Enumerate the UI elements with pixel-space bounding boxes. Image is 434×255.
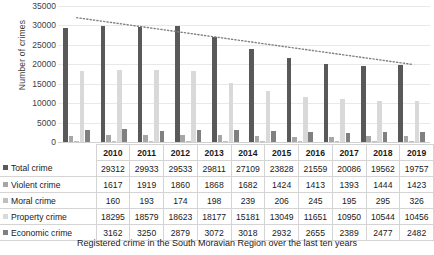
table-row: Moral crime16019317419823920624519529532… [0, 193, 434, 209]
table-row: Total crime29312299332953329811271092382… [0, 161, 434, 177]
y-axis-tick-5000: 5000 [22, 118, 56, 128]
bar-total-crime-2019 [398, 65, 403, 142]
bar-economic-crime-2018 [383, 132, 388, 142]
table-col-header-2011: 2011 [130, 145, 164, 161]
bar-violent-crime-2019 [404, 136, 409, 142]
table-cell-2015: 13049 [265, 209, 299, 225]
bar-moral-crime-2012 [149, 141, 154, 142]
table-cell-2018: 10544 [366, 209, 400, 225]
bar-violent-crime-2011 [106, 135, 111, 142]
table-cell-2019: 1423 [400, 177, 434, 193]
bar-property-crime-2019 [415, 101, 420, 142]
table-cell-2013: 29811 [197, 161, 231, 177]
table-cell-2014: 1682 [231, 177, 265, 193]
table-cell-2014: 15181 [231, 209, 265, 225]
bar-violent-crime-2016 [292, 137, 297, 142]
bar-economic-crime-2010 [85, 130, 90, 142]
bar-violent-crime-2017 [329, 137, 334, 142]
bar-property-crime-2014 [229, 83, 234, 142]
table-row-header-total-crime: Total crime [0, 161, 96, 177]
table-cell-2016: 245 [299, 193, 333, 209]
bar-economic-crime-2019 [420, 132, 425, 142]
table-cell-2018: 295 [366, 193, 400, 209]
bar-total-crime-2018 [361, 66, 366, 142]
y-axis-tick-10000: 10000 [22, 98, 56, 108]
y-axis-tick-25000: 25000 [22, 40, 56, 50]
data-table: 2010201120122013201420152016201720182019… [0, 144, 434, 241]
bar-property-crime-2010 [80, 71, 85, 142]
table-col-header-2017: 2017 [332, 145, 366, 161]
bar-moral-crime-2017 [335, 141, 340, 142]
bar-property-crime-2018 [377, 101, 382, 142]
bar-moral-crime-2013 [186, 141, 191, 142]
table-cell-2011: 18579 [130, 209, 164, 225]
bar-moral-crime-2014 [223, 141, 228, 142]
table-col-header-2016: 2016 [299, 145, 333, 161]
legend-swatch-icon [3, 165, 8, 170]
bar-violent-crime-2014 [218, 135, 223, 142]
plot-area [58, 6, 430, 142]
bar-property-crime-2011 [117, 70, 122, 142]
gridline-0 [58, 142, 430, 143]
table-cell-2013: 198 [197, 193, 231, 209]
table-cell-2017: 20086 [332, 161, 366, 177]
table-row-header-property-crime: Property crime [0, 209, 96, 225]
table-row-header-violent-crime: Violent crime [0, 177, 96, 193]
bar-property-crime-2015 [266, 91, 271, 142]
bar-economic-crime-2013 [197, 130, 202, 142]
table-cell-2017: 195 [332, 193, 366, 209]
bar-group-2010 [58, 6, 95, 142]
bar-violent-crime-2012 [143, 135, 148, 142]
table-cell-2013: 18177 [197, 209, 231, 225]
table-corner-cell [0, 145, 96, 161]
table-col-header-2010: 2010 [96, 145, 130, 161]
legend-label: Property crime [11, 212, 67, 222]
table-header-row: 2010201120122013201420152016201720182019 [0, 145, 434, 161]
chart-plot-region: Number of crimes 05000100001500020000250… [0, 0, 434, 152]
table-row-header-moral-crime: Moral crime [0, 193, 96, 209]
table-cell-2010: 160 [96, 193, 130, 209]
table-cell-2012: 1860 [164, 177, 198, 193]
bar-group-2011 [95, 6, 132, 142]
bar-total-crime-2011 [101, 26, 106, 142]
bar-economic-crime-2014 [234, 130, 239, 142]
table-cell-2017: 10950 [332, 209, 366, 225]
table-cell-2014: 27109 [231, 161, 265, 177]
bar-moral-crime-2015 [260, 141, 265, 142]
table-col-header-2013: 2013 [197, 145, 231, 161]
legend-label: Total crime [11, 163, 53, 173]
table-cell-2019: 10456 [400, 209, 434, 225]
bar-group-2015 [244, 6, 281, 142]
bar-total-crime-2010 [63, 28, 68, 142]
table-cell-2016: 1413 [299, 177, 333, 193]
bar-moral-crime-2019 [409, 141, 414, 142]
bar-total-crime-2015 [249, 49, 254, 142]
table-body: Total crime29312299332953329811271092382… [0, 161, 434, 241]
table-col-header-2014: 2014 [231, 145, 265, 161]
bar-property-crime-2012 [154, 70, 159, 142]
bar-group-2014 [207, 6, 244, 142]
bar-group-2018 [356, 6, 393, 142]
table-row: Property crime18295185791862318177151811… [0, 209, 434, 225]
table-cell-2012: 18623 [164, 209, 198, 225]
table-row: Violent crime161719191860186816821424141… [0, 177, 434, 193]
table-cell-2011: 193 [130, 193, 164, 209]
table-cell-2018: 19562 [366, 161, 400, 177]
table-cell-2016: 11651 [299, 209, 333, 225]
bar-groups [58, 6, 430, 142]
bar-property-crime-2017 [340, 99, 345, 142]
bar-violent-crime-2018 [366, 136, 371, 142]
bar-total-crime-2014 [212, 37, 217, 142]
y-axis-tick-labels: 05000100001500020000250003000035000 [22, 6, 56, 142]
data-table-wrapper: 2010201120122013201420152016201720182019… [0, 144, 434, 241]
bar-economic-crime-2015 [271, 131, 276, 142]
y-axis-tick-30000: 30000 [22, 20, 56, 30]
bar-economic-crime-2017 [346, 133, 351, 142]
chart-figure: Number of crimes 05000100001500020000250… [0, 0, 434, 255]
table-cell-2019: 326 [400, 193, 434, 209]
bar-economic-crime-2012 [160, 131, 165, 142]
table-col-header-2019: 2019 [400, 145, 434, 161]
bar-group-2019 [393, 6, 430, 142]
bar-economic-crime-2011 [122, 129, 127, 142]
bar-total-crime-2016 [287, 58, 292, 142]
